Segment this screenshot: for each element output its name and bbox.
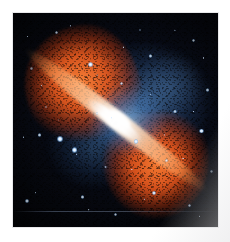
figure-alt-text: Composite astronomical image of a radio … [0, 0, 1, 1]
frame-vignette [13, 13, 218, 227]
figure-root: Composite astronomical image of a radio … [0, 0, 230, 242]
scan-artifact-line [13, 211, 218, 213]
astronomy-photo [13, 13, 218, 227]
